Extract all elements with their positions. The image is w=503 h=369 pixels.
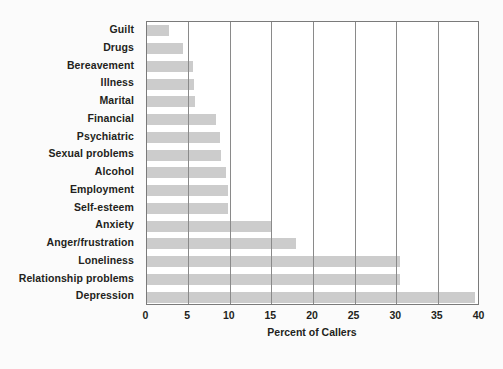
bar-row xyxy=(147,288,478,306)
x-tick-15: 15 xyxy=(265,309,277,321)
x-axis-ticks: 0510152025303540 xyxy=(0,309,503,325)
category-label-marital: Marital xyxy=(0,92,140,110)
category-label-psychiatric: Psychiatric xyxy=(0,128,140,146)
gridline-10 xyxy=(230,22,231,304)
category-axis-labels: GuiltDrugsBereavementIllnessMaritalFinan… xyxy=(0,21,140,305)
bar-row xyxy=(147,253,478,271)
category-label-drugs: Drugs xyxy=(0,39,140,57)
bar-depression xyxy=(147,292,476,303)
gridline-15 xyxy=(271,22,272,304)
gridline-20 xyxy=(313,22,314,304)
bar-rows xyxy=(147,22,478,304)
bar-row xyxy=(147,93,478,111)
category-label-anger-frustration: Anger/frustration xyxy=(0,234,140,252)
category-label-loneliness: Loneliness xyxy=(0,252,140,270)
gridline-30 xyxy=(396,22,397,304)
bar-row xyxy=(147,146,478,164)
bar-row xyxy=(147,200,478,218)
bar-row xyxy=(147,235,478,253)
gridline-35 xyxy=(438,22,439,304)
x-tick-20: 20 xyxy=(306,309,318,321)
bar-sexual-problems xyxy=(147,150,222,161)
bar-row xyxy=(147,75,478,93)
bar-illness xyxy=(147,79,194,90)
bar-row xyxy=(147,22,478,40)
bar-relationship-problems xyxy=(147,274,400,285)
category-label-financial: Financial xyxy=(0,110,140,128)
gridline-25 xyxy=(355,22,356,304)
category-label-anxiety: Anxiety xyxy=(0,216,140,234)
x-tick-25: 25 xyxy=(348,309,360,321)
bar-guilt xyxy=(147,25,169,36)
category-label-employment: Employment xyxy=(0,181,140,199)
bar-row xyxy=(147,40,478,58)
category-label-illness: Illness xyxy=(0,74,140,92)
bar-alcohol xyxy=(147,167,227,178)
category-label-guilt: Guilt xyxy=(0,21,140,39)
chart-figure: GuiltDrugsBereavementIllnessMaritalFinan… xyxy=(0,0,503,369)
category-label-self-esteem: Self-esteem xyxy=(0,199,140,217)
bar-psychiatric xyxy=(147,132,220,143)
bar-row xyxy=(147,58,478,76)
gridline-5 xyxy=(188,22,189,304)
bar-loneliness xyxy=(147,256,400,267)
bar-row xyxy=(147,182,478,200)
category-label-bereavement: Bereavement xyxy=(0,57,140,75)
x-tick-0: 0 xyxy=(143,309,149,321)
x-tick-35: 35 xyxy=(431,309,443,321)
x-tick-10: 10 xyxy=(223,309,235,321)
bar-anger-frustration xyxy=(147,238,296,249)
category-label-alcohol: Alcohol xyxy=(0,163,140,181)
plot-area xyxy=(146,21,479,305)
x-tick-5: 5 xyxy=(184,309,190,321)
x-tick-40: 40 xyxy=(473,309,485,321)
x-tick-30: 30 xyxy=(389,309,401,321)
bar-financial xyxy=(147,114,216,125)
bar-row xyxy=(147,129,478,147)
category-label-sexual-problems: Sexual problems xyxy=(0,145,140,163)
category-label-relationship-problems: Relationship problems xyxy=(0,270,140,288)
bar-bereavement xyxy=(147,61,194,72)
bar-row xyxy=(147,271,478,289)
bar-row xyxy=(147,111,478,129)
bar-row xyxy=(147,164,478,182)
bar-anxiety xyxy=(147,221,271,232)
category-label-depression: Depression xyxy=(0,287,140,305)
bar-row xyxy=(147,217,478,235)
x-axis-title: Percent of Callers xyxy=(146,326,479,338)
bar-drugs xyxy=(147,43,184,54)
